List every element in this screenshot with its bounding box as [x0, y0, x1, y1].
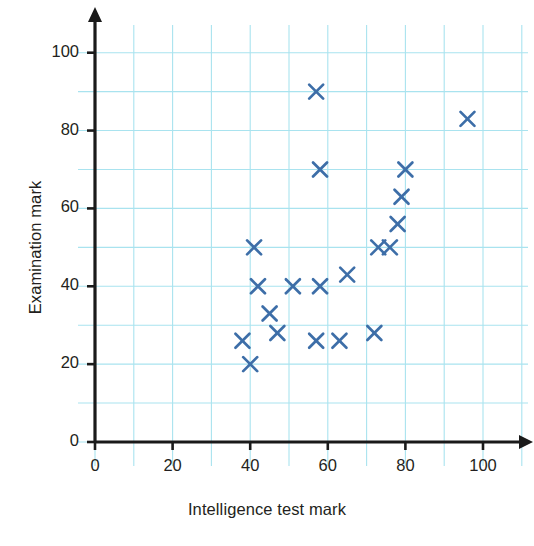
- x-tick-label: 20: [143, 456, 203, 475]
- axis-ticks: [87, 53, 483, 450]
- data-point: [395, 190, 409, 204]
- y-tick-label: 100: [21, 42, 79, 61]
- x-tick-label: 0: [65, 456, 125, 475]
- data-points: [235, 85, 474, 372]
- grid-lines: [78, 25, 528, 466]
- x-tick-label: 100: [453, 456, 513, 475]
- y-tick-label: 20: [21, 353, 79, 372]
- scatter-plot-figure: Intelligence test mark Examination mark …: [0, 0, 534, 546]
- data-point: [332, 334, 346, 348]
- y-tick-label: 0: [21, 431, 79, 450]
- data-point: [263, 307, 277, 321]
- data-point: [270, 326, 284, 340]
- data-point: [460, 112, 474, 126]
- data-point: [309, 334, 323, 348]
- axis-lines: [88, 7, 533, 449]
- x-tick-label: 40: [220, 456, 280, 475]
- x-tick-label: 80: [375, 456, 435, 475]
- data-point: [391, 217, 405, 231]
- data-point: [340, 268, 354, 282]
- y-tick-label: 40: [21, 275, 79, 294]
- x-axis-title: Intelligence test mark: [0, 500, 534, 519]
- y-tick-label: 80: [21, 120, 79, 139]
- x-tick-label: 60: [298, 456, 358, 475]
- y-tick-label: 60: [21, 197, 79, 216]
- data-point: [367, 326, 381, 340]
- data-point: [235, 334, 249, 348]
